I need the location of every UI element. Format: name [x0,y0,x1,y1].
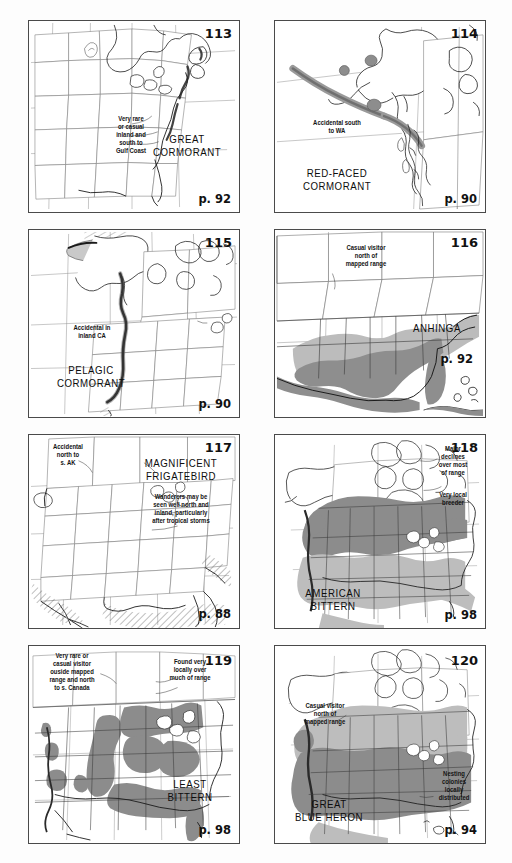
species-name: GREAT CORMORANT [145,133,229,159]
annotation-note-wanderers: Wanderers may be seen well north and inl… [132,493,229,525]
page-reference[interactable]: p. 94 [444,825,477,837]
range-map-panel-115[interactable]: 115 PELAGIC CORMORANT p. 90 Accidental i… [28,229,240,418]
annotation-note-accidental: Accidental north to s. AK [42,443,94,467]
page-reference[interactable]: p. 98 [444,610,477,622]
plate-number: 113 [205,27,232,40]
range-map-panel-116[interactable]: 116 ANHINGA p. 92 Casual visitor north o… [274,229,486,418]
range-map-panel-119[interactable]: 119 LEAST BITTERN p. 98 Very rare or cas… [28,645,240,844]
plate-number: 114 [451,27,478,40]
species-name: MAGNIFICENT FRIGATEBIRD [132,457,231,483]
plate-number: 115 [205,236,232,249]
annotation-note-declines: Major declines over most of range [428,445,478,477]
annotation-note: Very rare or casual inland and south to … [106,115,156,155]
species-name: PELAGIC CORMORANT [49,364,133,390]
annotation-note: Casual visitor north of mapped range [331,244,401,268]
species-name: GREAT BLUE HERON [285,798,373,824]
species-name: LEAST BITTERN [150,778,229,804]
range-map-grid: 113 GREAT CORMORANT p. 92 Very rare or c… [28,20,486,829]
plate-number: 117 [205,441,232,454]
annotation-note-local-breeder: Very local breeder [428,491,478,507]
plate-number: 120 [451,654,478,667]
range-map-panel-120[interactable]: 120 GREAT BLUE HERON p. 94 Casual visito… [274,645,486,844]
page-reference[interactable]: p. 90 [444,194,477,206]
species-name: ANHINGA [400,322,474,335]
annotation-note-casual-visitor: Casual visitor north of mapped range [291,702,359,726]
page-reference[interactable]: p. 92 [440,354,473,366]
range-map-panel-113[interactable]: 113 GREAT CORMORANT p. 92 Very rare or c… [28,20,240,213]
annotation-note-rare-visitor: Very rare or casual visitor ouside mappe… [37,652,107,692]
range-map-panel-118[interactable]: 118 AMERICAN BITTERN p. 98 Major decline… [274,434,486,629]
annotation-note-nesting: Nesting colonies locally distributed [430,770,479,802]
range-map-panel-117[interactable]: 117 MAGNIFICENT FRIGATEBIRD p. 88 Accide… [28,434,240,629]
species-name: RED-FACED CORMORANT [295,167,379,193]
annotation-note-found-locally: Found very locally over much of range [162,658,218,682]
page-reference[interactable]: p. 88 [198,609,231,621]
page-reference[interactable]: p. 98 [198,825,231,837]
page-reference[interactable]: p. 92 [198,194,231,206]
range-map-panel-114[interactable]: 114 RED-FACED CORMORANT p. 90 Accidental… [274,20,486,213]
plate-number: 116 [451,236,478,249]
species-name: AMERICAN BITTERN [291,587,375,613]
page-reference[interactable]: p. 90 [198,399,231,411]
field-guide-page: 113 GREAT CORMORANT p. 92 Very rare or c… [0,0,512,863]
annotation-note: Accidental in inland CA [55,324,129,340]
annotation-note: Accidental south to WA [299,119,375,135]
